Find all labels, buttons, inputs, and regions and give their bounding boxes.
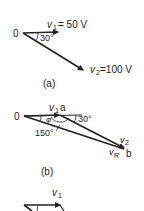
v1-subscript: 1 — [53, 24, 57, 31]
v2-subscript: 2 — [125, 139, 129, 146]
phasor-diagrams: 0 v 1 = 50 V 30° v 2 =100 V (a) 0 v 1 a … — [0, 0, 144, 211]
v1-value: = 50 V — [58, 19, 88, 30]
point-a: a — [60, 102, 66, 113]
origin-label: 0 — [13, 28, 19, 39]
figure-c-partial: v 1 — [24, 187, 64, 211]
figure-a: 0 v 1 = 50 V 30° v 2 =100 V (a) — [13, 19, 132, 89]
angle-30-arc — [74, 115, 76, 123]
angle-label: 30° — [40, 33, 54, 43]
point-b: b — [126, 148, 132, 159]
angle-arc — [37, 33, 39, 40]
figure-b: 0 v 1 a 30° φ 150° v 2 v R b (b) — [14, 102, 132, 177]
v2-value: =100 V — [100, 64, 132, 75]
partial-line — [24, 205, 32, 211]
phi-label: φ — [46, 115, 51, 124]
phi-arc — [40, 116, 41, 121]
v1-phasor — [24, 115, 59, 116]
vr-subscript: R — [114, 152, 119, 159]
v1-subscript: 1 — [55, 107, 59, 114]
angle-150-label: 150° — [35, 128, 54, 138]
partial-arc — [37, 205, 38, 211]
caption-a: (a) — [43, 78, 55, 89]
v1-subscript: 1 — [58, 192, 62, 199]
caption-b: (b) — [41, 166, 53, 177]
angle-30-label: 30° — [78, 114, 92, 124]
partial-line-2 — [60, 205, 64, 211]
origin-label: 0 — [14, 111, 20, 122]
